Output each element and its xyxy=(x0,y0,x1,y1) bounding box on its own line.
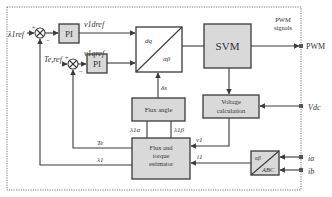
pwm-port xyxy=(299,44,303,48)
flux-ref-label: λ1ref xyxy=(7,30,26,39)
v1d-ref-label: v1dref xyxy=(84,20,106,29)
estimator-line3: estimator xyxy=(149,160,174,167)
estimator-line1: Flux and xyxy=(150,144,174,151)
ib-label: ib xyxy=(308,167,314,176)
ia-port xyxy=(299,155,303,159)
voltage-calc-line2: calculation xyxy=(217,107,246,114)
sum2-minus: − xyxy=(79,68,83,76)
ab-label: αβ xyxy=(255,155,261,161)
ib-port xyxy=(299,168,303,172)
sum-junction-torque xyxy=(68,59,78,69)
te-feedback-label: Te xyxy=(97,139,103,147)
v1-vector-label: v1 xyxy=(196,136,203,144)
lambda-1beta-label: λ1β xyxy=(173,126,185,134)
ia-label: ia xyxy=(308,154,314,163)
svm-label: SVM xyxy=(216,40,240,52)
abc-label: ABC xyxy=(261,166,275,173)
pi1-label: PI xyxy=(65,29,73,39)
block-diagram: PWM signals λ1ref + − PI v1dref Te,ref +… xyxy=(0,0,332,197)
delta-s-label: δs xyxy=(161,84,167,92)
lambda-1alpha-label: λ1α xyxy=(129,126,141,134)
torque-ref-label: Te,ref xyxy=(44,55,64,64)
estimator-line2: torque xyxy=(153,152,170,159)
sum1-minus: − xyxy=(46,37,50,45)
dq-label: dq xyxy=(145,37,153,45)
vdc-label: Vdc xyxy=(308,103,321,112)
pwm-note-line2: signals xyxy=(274,24,293,31)
vdc-port xyxy=(299,104,303,108)
sum-junction-flux xyxy=(35,28,45,38)
sum2-plus: + xyxy=(65,55,69,61)
pi2-label: PI xyxy=(93,59,101,69)
alphabeta-label: αβ xyxy=(163,55,171,63)
v1q-ref-label: v1qref xyxy=(84,49,106,58)
lambda1-feedback-label: λ1 xyxy=(96,156,104,164)
i1-vector-label: i1 xyxy=(197,153,202,161)
pwm-output-label: PWM xyxy=(306,42,325,51)
pwm-note-line1: PWM xyxy=(275,16,291,23)
voltage-calc-line1: Voltage xyxy=(221,98,241,105)
flux-angle-label: Flux angle xyxy=(145,106,173,113)
